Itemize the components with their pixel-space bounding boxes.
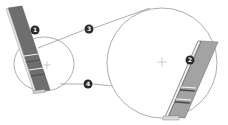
svg-text:1: 1 — [33, 26, 37, 33]
connector-line-bottom-right — [93, 84, 112, 86]
svg-text:2: 2 — [188, 56, 192, 63]
callout-badge-2: 2 — [186, 56, 195, 65]
svg-text:3: 3 — [87, 25, 91, 32]
callout-badge-1: 1 — [31, 26, 40, 35]
svg-text:4: 4 — [86, 80, 90, 87]
diagram-canvas: 1 2 3 4 — [0, 0, 228, 125]
connector-line-top-left — [38, 30, 84, 48]
large-center-crosshair-icon — [157, 57, 167, 67]
large-panel-object — [163, 41, 218, 120]
small-panel-object — [6, 6, 50, 94]
callout-badge-4: 4 — [84, 80, 93, 89]
diagram-svg: 1 2 3 4 — [0, 0, 228, 125]
callout-badge-3: 3 — [85, 25, 94, 34]
small-center-crosshair-icon — [43, 61, 51, 69]
